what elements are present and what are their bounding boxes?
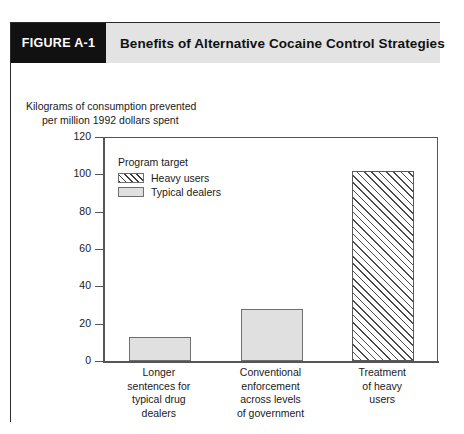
chart-legend: Program target Heavy users Typical deale… bbox=[118, 155, 221, 199]
category-label-line: Conventional bbox=[216, 366, 326, 380]
figure-page: FIGURE A-1 Benefits of Alternative Cocai… bbox=[0, 0, 464, 434]
x-axis-category-labels: Longersentences fortypical drugdealersCo… bbox=[103, 366, 438, 428]
y-tick-label: 80 bbox=[55, 205, 91, 217]
y-tick-label: 120 bbox=[55, 130, 91, 142]
x-axis-line bbox=[103, 361, 439, 363]
category-label-line: enforcement bbox=[216, 380, 326, 394]
y-tick-mark bbox=[95, 361, 103, 362]
legend-swatch-solid-icon bbox=[118, 187, 144, 197]
y-axis-caption-line-2: per million 1992 dollars spent bbox=[26, 114, 326, 128]
legend-label-typical-dealers: Typical dealers bbox=[151, 185, 221, 199]
y-tick-mark bbox=[95, 212, 103, 213]
y-axis-caption-line-1: Kilograms of consumption prevented bbox=[26, 100, 326, 114]
y-tick-label: 0 bbox=[55, 354, 91, 366]
y-tick-mark bbox=[95, 324, 103, 325]
category-label-line: sentences for bbox=[104, 380, 214, 394]
category-label-line: Longer bbox=[104, 366, 214, 380]
y-tick-mark bbox=[95, 174, 103, 175]
y-tick-label: 20 bbox=[55, 317, 91, 329]
bar-2 bbox=[241, 309, 303, 361]
category-label-line: dealers bbox=[104, 407, 214, 421]
category-label-line: across levels bbox=[216, 393, 326, 407]
figure-number-tag: FIGURE A-1 bbox=[11, 23, 106, 63]
legend-swatch-hatched-icon bbox=[118, 173, 144, 183]
category-label-3: Treatmentof heavyusers bbox=[327, 366, 437, 407]
legend-title: Program target bbox=[118, 155, 221, 169]
y-tick-label: 40 bbox=[55, 279, 91, 291]
category-label-line: Treatment bbox=[327, 366, 437, 380]
y-tick-label: 100 bbox=[55, 167, 91, 179]
category-label-line: users bbox=[327, 393, 437, 407]
legend-label-heavy-users: Heavy users bbox=[151, 171, 209, 185]
category-label-line: of heavy bbox=[327, 380, 437, 394]
bar-1 bbox=[129, 337, 191, 361]
category-label-line: of government bbox=[216, 407, 326, 421]
category-label-1: Longersentences fortypical drugdealers bbox=[104, 366, 214, 420]
y-axis-caption: Kilograms of consumption prevented per m… bbox=[26, 100, 326, 127]
legend-item-heavy-users: Heavy users bbox=[118, 171, 221, 184]
y-tick-mark bbox=[95, 137, 103, 138]
y-tick-mark bbox=[95, 286, 103, 287]
y-tick-label: 60 bbox=[55, 242, 91, 254]
bar-3 bbox=[352, 171, 414, 361]
figure-title: Benefits of Alternative Cocaine Control … bbox=[120, 23, 445, 63]
category-label-line: typical drug bbox=[104, 393, 214, 407]
y-tick-mark bbox=[95, 249, 103, 250]
legend-item-typical-dealers: Typical dealers bbox=[118, 185, 221, 198]
category-label-2: Conventionalenforcementacross levelsof g… bbox=[216, 366, 326, 420]
figure-number-label: FIGURE A-1 bbox=[22, 36, 95, 50]
